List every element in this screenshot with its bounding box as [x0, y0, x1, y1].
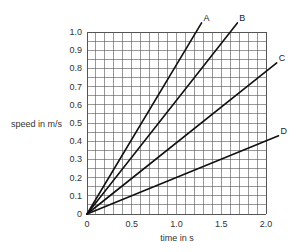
y-tick-label: 0.8 [69, 63, 82, 73]
chart-grid [87, 32, 266, 214]
y-tick-label: 0.5 [69, 118, 82, 128]
y-axis-ticks: 00.10.20.30.40.50.60.70.80.91.0 [69, 27, 82, 219]
series-line-d [87, 136, 279, 214]
y-tick-label: 0.3 [69, 154, 82, 164]
series-label-c: C [279, 53, 286, 63]
x-tick-label: 0 [84, 219, 89, 229]
series-label-b: B [239, 13, 245, 23]
x-axis-ticks: 00.51.01.52.0 [84, 219, 272, 229]
x-tick-label: 1.5 [215, 219, 228, 229]
y-tick-label: 0 [77, 209, 82, 219]
series-line-a [87, 23, 202, 214]
series-line-b [87, 23, 237, 214]
series-label-a: A [204, 13, 210, 23]
y-tick-label: 0.9 [69, 45, 82, 55]
x-tick-label: 0.5 [125, 219, 138, 229]
series-label-d: D [281, 126, 288, 136]
y-axis-title: speed in m/s [11, 119, 63, 129]
x-axis-title: time in s [160, 233, 194, 243]
y-tick-label: 1.0 [69, 27, 82, 37]
data-lines: ABCD [87, 13, 288, 214]
speed-time-chart: 00.10.20.30.40.50.60.70.80.91.0 00.51.01… [0, 0, 296, 252]
x-tick-label: 1.0 [170, 219, 183, 229]
y-tick-label: 0.7 [69, 82, 82, 92]
y-tick-label: 0.2 [69, 173, 82, 183]
x-tick-label: 2.0 [260, 219, 273, 229]
y-tick-label: 0.1 [69, 191, 82, 201]
y-tick-label: 0.4 [69, 136, 82, 146]
y-tick-label: 0.6 [69, 100, 82, 110]
